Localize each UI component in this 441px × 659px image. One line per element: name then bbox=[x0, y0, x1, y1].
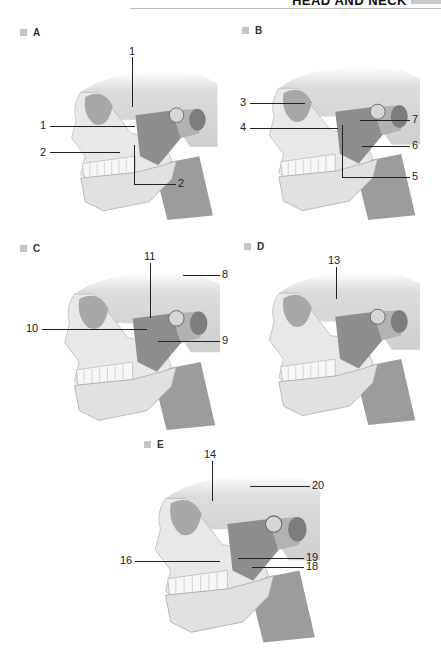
callout-11: 11 bbox=[144, 251, 155, 262]
panel-b: B 3 4 7 6 5 bbox=[220, 0, 441, 220]
callout-5: 5 bbox=[412, 171, 418, 182]
panel-e: E 14 20 16 19 18 bbox=[120, 430, 340, 659]
leader-line bbox=[342, 125, 343, 177]
panel-label-d: D bbox=[244, 241, 264, 252]
leader-line bbox=[342, 177, 410, 178]
callout-2-left: 2 bbox=[40, 147, 46, 158]
callout-6: 6 bbox=[412, 140, 418, 151]
callout-16: 16 bbox=[120, 555, 132, 566]
leader-line bbox=[212, 461, 213, 501]
callout-4: 4 bbox=[240, 122, 246, 133]
leader-line bbox=[134, 184, 176, 185]
leader-line bbox=[238, 558, 304, 559]
leader-line bbox=[135, 561, 220, 562]
panel-label-e: E bbox=[144, 439, 164, 450]
callout-3: 3 bbox=[240, 97, 246, 108]
leader-line bbox=[252, 567, 304, 568]
callout-7: 7 bbox=[412, 114, 418, 125]
callout-13: 13 bbox=[328, 255, 340, 266]
illustration-c bbox=[50, 265, 225, 430]
illustration-a bbox=[55, 65, 225, 220]
leader-line bbox=[50, 152, 120, 153]
illustration-e bbox=[145, 465, 320, 645]
leader-line bbox=[250, 486, 310, 487]
panel-letter: E bbox=[157, 439, 164, 450]
leader-line bbox=[362, 146, 410, 147]
callout-10: 10 bbox=[26, 323, 38, 334]
panel-letter: A bbox=[33, 27, 40, 38]
panel-letter: C bbox=[33, 243, 40, 254]
panel-c: C 11 8 10 9 bbox=[0, 220, 220, 430]
leader-line bbox=[42, 329, 147, 330]
panel-marker bbox=[20, 29, 27, 36]
panel-letter: B bbox=[255, 25, 262, 36]
panel-label-c: C bbox=[20, 243, 40, 254]
callout-18: 18 bbox=[306, 561, 318, 572]
leader-line bbox=[360, 120, 410, 121]
panel-label-b: B bbox=[242, 25, 262, 36]
leader-line bbox=[132, 57, 133, 107]
illustration-d bbox=[260, 265, 420, 425]
panel-marker bbox=[20, 245, 27, 252]
leader-line bbox=[150, 263, 151, 318]
leader-line bbox=[50, 126, 135, 127]
leader-line bbox=[158, 341, 220, 342]
panel-marker bbox=[244, 243, 251, 250]
illustration-b bbox=[255, 60, 425, 220]
callout-1-top: 1 bbox=[129, 46, 135, 57]
callout-1-left: 1 bbox=[40, 120, 46, 131]
panel-a: A 1 1 2 2 bbox=[0, 0, 220, 220]
leader-line bbox=[183, 275, 220, 276]
panel-marker bbox=[144, 441, 151, 448]
leader-line bbox=[134, 145, 135, 185]
leader-line bbox=[250, 128, 338, 129]
leader-line bbox=[250, 103, 305, 104]
panel-d: D 13 bbox=[220, 220, 441, 430]
panel-label-a: A bbox=[20, 27, 40, 38]
callout-2-right: 2 bbox=[178, 178, 184, 189]
callout-14: 14 bbox=[204, 449, 216, 460]
leader-line bbox=[336, 267, 337, 299]
callout-20: 20 bbox=[312, 480, 324, 491]
panel-letter: D bbox=[257, 241, 264, 252]
panel-marker bbox=[242, 27, 249, 34]
